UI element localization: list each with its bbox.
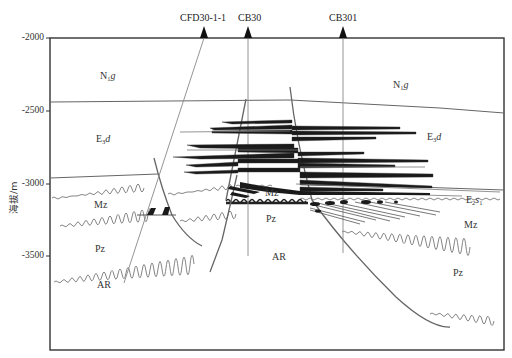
- formation-label-e3d-left: E3d: [96, 134, 110, 146]
- formation-label-e3d-right: E3d: [427, 132, 441, 144]
- formation-label-n1g-left: N1g: [100, 71, 115, 83]
- cross-section-diagram: -2000 -2500 -3000 -3500 海拔/m CFD30-1-1 C…: [0, 0, 512, 358]
- y-tick-label: -2000: [4, 33, 44, 43]
- formation-label-e2s1: E2s1: [466, 195, 483, 207]
- unconformity-pz-base-left: [54, 255, 194, 283]
- faults: [154, 87, 450, 327]
- well-label-cb30: CB30: [238, 13, 261, 23]
- fault-main-right: [290, 87, 450, 327]
- well-trace-cfd30-1-1: [124, 38, 204, 283]
- y-axis-title: 海拔/m: [6, 182, 20, 214]
- unconformity-mz-top-left: [52, 184, 144, 199]
- y-tick-label: -3500: [4, 251, 44, 261]
- formation-label-n1g-right: N1g: [393, 80, 408, 92]
- formation-label-ar-center: AR: [272, 252, 286, 262]
- unconformity-mz-base-left: [60, 209, 152, 227]
- basal-conglomerate-band: [226, 200, 308, 204]
- formation-label-mz-right: Mz: [464, 220, 477, 230]
- clinoforms: [310, 202, 440, 224]
- well-label-cfd30-1-1: CFD30-1-1: [180, 13, 226, 23]
- y-tick-label: -2500: [4, 106, 44, 116]
- section-canvas: [0, 0, 512, 358]
- boundary-n1g-e3d: [50, 100, 504, 113]
- formation-label-ar-left: AR: [97, 280, 111, 290]
- boundary-e3d-base-left: [50, 174, 158, 178]
- unconformity-ar-top-right: [430, 313, 494, 326]
- formation-label-pz-left: Pz: [95, 244, 105, 254]
- sand-lenses-e3d: [173, 120, 433, 191]
- unconformity-mz-top-mid: [168, 185, 232, 196]
- fault-left-inner: [154, 158, 202, 246]
- well-markers: [200, 26, 347, 38]
- well-marker-cb301: [339, 26, 347, 38]
- unconformity-pz-top-right: [342, 231, 470, 256]
- formation-label-pz-center: Pz: [266, 214, 276, 224]
- formation-label-pz-right: Pz: [453, 268, 463, 278]
- formation-label-mz-center: Mz: [265, 188, 278, 198]
- well-marker-cb30: [244, 26, 252, 38]
- well-label-cb301: CB301: [329, 13, 357, 23]
- formation-label-mz-left: Mz: [94, 200, 107, 210]
- well-marker-cfd30-1-1: [200, 26, 208, 38]
